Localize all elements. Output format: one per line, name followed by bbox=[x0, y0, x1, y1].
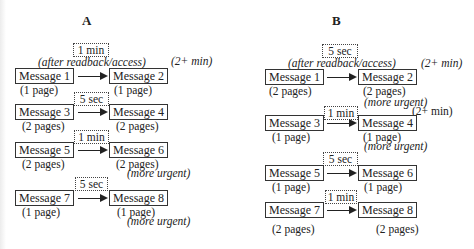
arrow-right-icon bbox=[78, 108, 108, 116]
arrow-right-icon bbox=[327, 119, 357, 127]
priority-note: (more urgent) bbox=[364, 140, 427, 152]
arrow-right-icon bbox=[78, 194, 108, 202]
arrow-right-icon bbox=[327, 73, 357, 81]
scan-edge-shadow bbox=[0, 0, 6, 249]
message-box: Message 5 bbox=[265, 165, 324, 181]
page-count: (1 page) bbox=[114, 84, 152, 96]
timer-box: 1 min bbox=[74, 130, 109, 144]
message-box: Message 7 bbox=[265, 202, 324, 218]
condition-note: (after readback/access) bbox=[288, 57, 396, 69]
priority-note: (more urgent) bbox=[127, 215, 190, 227]
priority-note: (more urgent) bbox=[127, 167, 190, 179]
timer-box: 5 sec bbox=[75, 177, 108, 191]
page-count: (2 pages) bbox=[272, 223, 314, 235]
page-count: (1 page) bbox=[272, 181, 310, 193]
page-count: (1 page) bbox=[20, 84, 58, 96]
message-box: Message 2 bbox=[109, 68, 168, 84]
page-count: (2 pages) bbox=[22, 120, 64, 132]
page-count: (1 page) bbox=[22, 206, 60, 218]
arrow-right-icon bbox=[78, 72, 108, 80]
timer-box: 5 sec bbox=[323, 152, 358, 166]
page-count: (2 pages) bbox=[22, 158, 64, 170]
message-box: Message 4 bbox=[358, 115, 417, 131]
page-count: (2 pages) bbox=[116, 120, 158, 132]
message-box: Message 8 bbox=[358, 202, 417, 218]
timer-box: 5 sec bbox=[322, 44, 358, 58]
arrow-right-icon bbox=[327, 206, 357, 214]
timer-box: 5 sec bbox=[74, 92, 109, 106]
message-box: Message 6 bbox=[109, 142, 168, 158]
page-count: (1 page) bbox=[364, 181, 402, 193]
message-box: Message 5 bbox=[15, 142, 74, 158]
timer-box: 1 min bbox=[73, 43, 109, 57]
followup-note: (2+ min) bbox=[421, 57, 462, 69]
message-box: Message 2 bbox=[358, 69, 417, 85]
timer-box: 1 min bbox=[324, 106, 358, 120]
message-box: Message 6 bbox=[358, 165, 417, 181]
message-box: Message 3 bbox=[15, 104, 74, 120]
condition-note: (after readback/access) bbox=[38, 56, 146, 68]
arrow-right-icon bbox=[78, 146, 108, 154]
page-count: (2 pages) bbox=[376, 223, 418, 235]
message-box: Message 1 bbox=[265, 69, 324, 85]
message-box: Message 8 bbox=[109, 190, 168, 206]
followup-note: (2+ min) bbox=[171, 55, 212, 67]
arrow-right-icon bbox=[327, 169, 357, 177]
panel-a-label: A bbox=[82, 13, 91, 29]
page-count: (2 pages) bbox=[269, 85, 311, 97]
message-box: Message 4 bbox=[109, 104, 168, 120]
timer-box: 1 min bbox=[325, 190, 357, 204]
message-box: Message 7 bbox=[15, 190, 74, 206]
message-box: Message 1 bbox=[15, 68, 74, 84]
message-box: Message 3 bbox=[265, 115, 324, 131]
panel-b-label: B bbox=[332, 13, 341, 29]
page-count: (1 page) bbox=[272, 131, 310, 143]
followup-note: (2+ min) bbox=[412, 105, 453, 117]
